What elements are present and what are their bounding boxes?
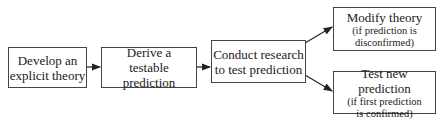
node-test-new-prediction: Test new prediction (if first prediction… (333, 71, 436, 114)
arrow-conduct-to-testnew (305, 75, 332, 91)
node-note-line: (if first prediction (347, 96, 422, 108)
node-derive-prediction: Derive a testable prediction (101, 47, 197, 88)
node-modify-theory: Modify theory (if prediction is disconfi… (333, 7, 436, 51)
arrow-conduct-to-modify (305, 27, 332, 43)
node-text-line: Derive a (127, 45, 171, 60)
node-text-line: Conduct research (213, 47, 304, 62)
node-note-line: is confirmed) (356, 108, 412, 120)
node-develop-theory: Develop an explicit theory (8, 47, 87, 88)
node-text-line: explicit theory (10, 68, 85, 83)
node-note-line: (if prediction is (352, 25, 417, 37)
node-conduct-research: Conduct research to test prediction (211, 40, 306, 83)
node-text-line: to test prediction (215, 62, 302, 77)
node-note-line: disconfirmed) (355, 37, 414, 49)
node-title: Test new prediction (334, 66, 435, 96)
node-title: Modify theory (347, 10, 422, 25)
node-text-line: testable prediction (102, 60, 196, 90)
node-text-line: Develop an (18, 53, 78, 68)
